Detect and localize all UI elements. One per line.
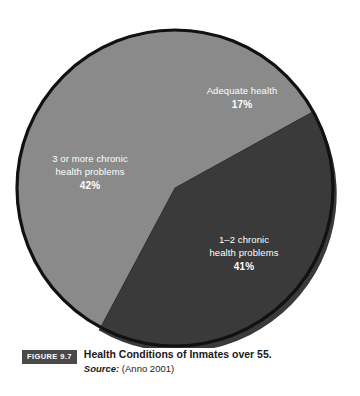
pie-label-adequate-health-value: 17% [188, 97, 296, 111]
pie-label-three-or-more-chronic-line1: 3 or more chronic [52, 153, 128, 164]
figure-caption-text: Health Conditions of Inmates over 55. So… [77, 348, 342, 375]
figure-title: Health Conditions of Inmates over 55. [84, 348, 342, 361]
pie-label-adequate-health-line1: Adequate health [207, 85, 278, 96]
pie-label-one-two-chronic: 1–2 chronic health problems 41% [188, 233, 300, 273]
figure-caption: FIGURE 9.7 Health Conditions of Inmates … [22, 348, 342, 375]
pie-label-one-two-chronic-line2: health problems [209, 247, 278, 258]
pie-label-three-or-more-chronic-value: 42% [32, 178, 148, 192]
pie-label-one-two-chronic-value: 41% [188, 259, 300, 273]
figure-source-label: Source: [84, 363, 119, 374]
figure-page: Adequate health 17% 3 or more chronic he… [0, 0, 360, 396]
pie-label-three-or-more-chronic: 3 or more chronic health problems 42% [32, 152, 148, 192]
figure-source-value: (Anno 2001) [122, 363, 174, 374]
pie-label-three-or-more-chronic-line2: health problems [55, 166, 124, 177]
figure-number-badge: FIGURE 9.7 [22, 350, 77, 364]
pie-label-adequate-health: Adequate health 17% [188, 84, 296, 111]
figure-source: Source: (Anno 2001) [84, 361, 342, 375]
pie-label-one-two-chronic-line1: 1–2 chronic [219, 234, 269, 245]
pie-chart: Adequate health 17% 3 or more chronic he… [0, 0, 360, 348]
